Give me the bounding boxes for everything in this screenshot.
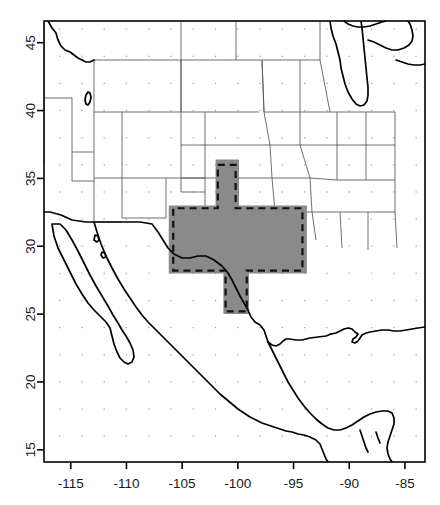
grid-dot (304, 83, 305, 84)
grid-dot (148, 246, 149, 247)
grid-dot (126, 300, 127, 301)
grid-dot (349, 354, 350, 355)
grid-dot (326, 29, 327, 30)
grid-dot (193, 164, 194, 165)
grid-dot (148, 327, 149, 328)
grid-dot (148, 381, 149, 382)
grid-dot (371, 327, 372, 328)
grid-dot (349, 29, 350, 30)
x-tick-label: -95 (284, 476, 304, 491)
grid-dot (349, 273, 350, 274)
grid-dot (260, 191, 261, 192)
grid-dot (304, 164, 305, 165)
grid-dot (104, 354, 105, 355)
x-tick-label: -100 (224, 476, 251, 491)
grid-dot (59, 56, 60, 57)
grid-dot (304, 381, 305, 382)
grid-dot (81, 164, 82, 165)
grid-dot (371, 436, 372, 437)
grid-dot (104, 381, 105, 382)
grid-dot (148, 83, 149, 84)
grid-dot (415, 300, 416, 301)
grid-dot (326, 83, 327, 84)
grid-dot (126, 137, 127, 138)
y-tick-label: 35 (23, 171, 38, 186)
grid-dot (304, 29, 305, 30)
grid-dot (349, 300, 350, 301)
grid-dot (304, 110, 305, 111)
grid-dot (59, 83, 60, 84)
grid-dot (282, 436, 283, 437)
grid-dot (126, 246, 127, 247)
x-tick-label: -105 (169, 476, 196, 491)
grid-dot (126, 408, 127, 409)
grid-dot (371, 110, 372, 111)
grid-dot (126, 164, 127, 165)
grid-dot (170, 354, 171, 355)
grid-dot (170, 83, 171, 84)
grid-dot (371, 83, 372, 84)
grid-dot (81, 110, 82, 111)
grid-dot (81, 137, 82, 138)
grid-dot (170, 327, 171, 328)
grid-dot (59, 381, 60, 382)
grid-dot (59, 273, 60, 274)
grid-dot (148, 354, 149, 355)
grid-dot (393, 110, 394, 111)
grid-dot (326, 436, 327, 437)
grid-dot (215, 110, 216, 111)
grid-dot (282, 110, 283, 111)
grid-dot (104, 246, 105, 247)
grid-dot (349, 110, 350, 111)
grid-dot (260, 436, 261, 437)
grid-dot (193, 300, 194, 301)
map-canvas (44, 21, 425, 462)
grid-dot (282, 164, 283, 165)
grid-dot (193, 327, 194, 328)
grid-dot (237, 354, 238, 355)
grid-dot (415, 56, 416, 57)
grid-dot (81, 191, 82, 192)
grid-dot (371, 191, 372, 192)
grid-dot (126, 56, 127, 57)
grid-dot (104, 110, 105, 111)
grid-dot (393, 273, 394, 274)
grid-dot (215, 436, 216, 437)
grid-dot (215, 83, 216, 84)
grid-dot (415, 137, 416, 138)
grid-dot (104, 164, 105, 165)
grid-dot (148, 164, 149, 165)
study-region-map: -115-110-105-100-95-90-85 15202530354045 (0, 0, 440, 505)
grid-dot (282, 354, 283, 355)
grid-dot (59, 219, 60, 220)
grid-dot (393, 436, 394, 437)
grid-dot (415, 436, 416, 437)
grid-dot (304, 327, 305, 328)
grid-dot (326, 56, 327, 57)
grid-dot (282, 29, 283, 30)
grid-dot (193, 56, 194, 57)
grid-dot (170, 164, 171, 165)
grid-dot (170, 137, 171, 138)
grid-dot (81, 381, 82, 382)
grid-dot (170, 56, 171, 57)
grid-dot (148, 436, 149, 437)
grid-dot (393, 300, 394, 301)
grid-dot (148, 191, 149, 192)
grid-dot (170, 408, 171, 409)
grid-dot (215, 381, 216, 382)
grid-dot (193, 110, 194, 111)
grid-dot (237, 436, 238, 437)
grid-dot (349, 56, 350, 57)
grid-dot (193, 354, 194, 355)
grid-dot (326, 110, 327, 111)
grid-dot (193, 83, 194, 84)
grid-dot (148, 300, 149, 301)
grid-dot (415, 246, 416, 247)
grid-dot (260, 381, 261, 382)
grid-dot (415, 219, 416, 220)
grid-dot (126, 219, 127, 220)
grid-dot (126, 354, 127, 355)
grid-dot (371, 300, 372, 301)
grid-dot (282, 381, 283, 382)
